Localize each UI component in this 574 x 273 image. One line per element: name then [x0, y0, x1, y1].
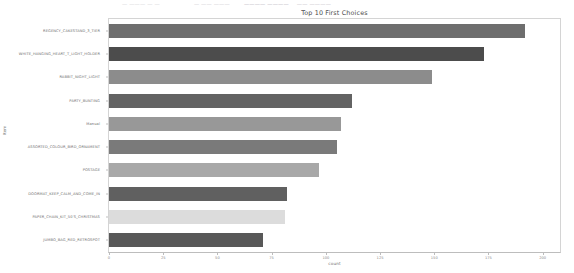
y-axis-tick-labels: REGENCY_CAKESTAND_3_TIERWHITE_HANGING_HE…: [0, 18, 104, 253]
bars-container: [109, 19, 560, 252]
x-tick-mark: [434, 253, 435, 255]
y-tick-label: POSTAGE: [83, 168, 100, 172]
y-tick-label: PAPER_CHAIN_KIT_50'S_CHRISTMAS: [33, 215, 100, 219]
bar: [109, 210, 285, 224]
x-tick-mark: [488, 253, 489, 255]
x-tick-mark: [326, 253, 327, 255]
bar: [109, 163, 319, 177]
x-tick-mark: [272, 253, 273, 255]
header-fragment-4: —— ————: [297, 0, 331, 9]
y-tick-label: WHITE_HANGING_HEART_T_LIGHT_HOLDER: [19, 52, 100, 56]
bar-row: [109, 210, 560, 224]
bar: [109, 140, 337, 154]
x-tick-label: 0: [108, 256, 110, 260]
bar: [109, 117, 341, 131]
x-tick-mark: [217, 253, 218, 255]
bar-row: [109, 233, 560, 247]
clipped-header-strip: — ——— — —— —— ——————— —————— ————: [0, 0, 574, 9]
bar: [109, 24, 525, 38]
x-tick-mark: [163, 253, 164, 255]
bar-chart-figure: Top 10 First Choices Item REGENCY_CAKEST…: [0, 11, 574, 273]
chart-page: — ——— — —— —— ——————— —————— ———— Top 10…: [0, 0, 574, 273]
bar-row: [109, 47, 560, 61]
y-tick-label: ASSORTED_COLOUR_BIRD_ORNAMENT: [28, 145, 100, 149]
y-tick-label: REGENCY_CAKESTAND_3_TIER: [43, 29, 100, 33]
chart-title: Top 10 First Choices: [108, 9, 561, 17]
x-tick-mark: [380, 253, 381, 255]
plot-axes: [108, 18, 561, 253]
header-fragment-3: ———— ————: [244, 0, 289, 9]
header-fragment-2: — —— ———: [194, 0, 230, 9]
bar-row: [109, 140, 560, 154]
y-tick-label: RABBIT_NIGHT_LIGHT: [59, 75, 100, 79]
bar: [109, 94, 352, 108]
x-tick-mark: [543, 253, 544, 255]
bar-row: [109, 163, 560, 177]
bar: [109, 187, 287, 201]
y-tick-label: JUMBO_BAG_RED_RETROSPOT: [43, 238, 100, 242]
y-tick-label: DOORMAT_KEEP_CALM_AND_COME_IN: [28, 192, 100, 196]
bar: [109, 47, 484, 61]
header-fragment-1: — ——— — —: [122, 0, 160, 9]
x-tick-label: 25: [161, 256, 166, 260]
x-tick-label: 175: [485, 256, 492, 260]
x-tick-label: 100: [322, 256, 329, 260]
bar-row: [109, 70, 560, 84]
x-tick-label: 150: [431, 256, 438, 260]
bar: [109, 233, 263, 247]
bar-row: [109, 117, 560, 131]
x-tick-label: 200: [539, 256, 546, 260]
x-tick-label: 125: [377, 256, 384, 260]
bar-row: [109, 24, 560, 38]
y-tick-label: PARTY_BUNTING: [69, 99, 100, 103]
x-tick-label: 75: [269, 256, 274, 260]
bar: [109, 70, 432, 84]
x-axis-title: count: [108, 261, 561, 266]
bar-row: [109, 187, 560, 201]
y-tick-label: Manual: [86, 122, 100, 126]
bar-row: [109, 94, 560, 108]
x-tick-label: 50: [215, 256, 220, 260]
x-tick-mark: [109, 253, 110, 255]
